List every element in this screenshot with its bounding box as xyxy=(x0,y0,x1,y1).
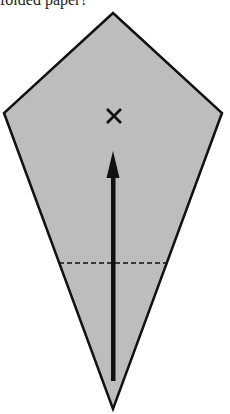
kite-diagram xyxy=(0,0,230,414)
